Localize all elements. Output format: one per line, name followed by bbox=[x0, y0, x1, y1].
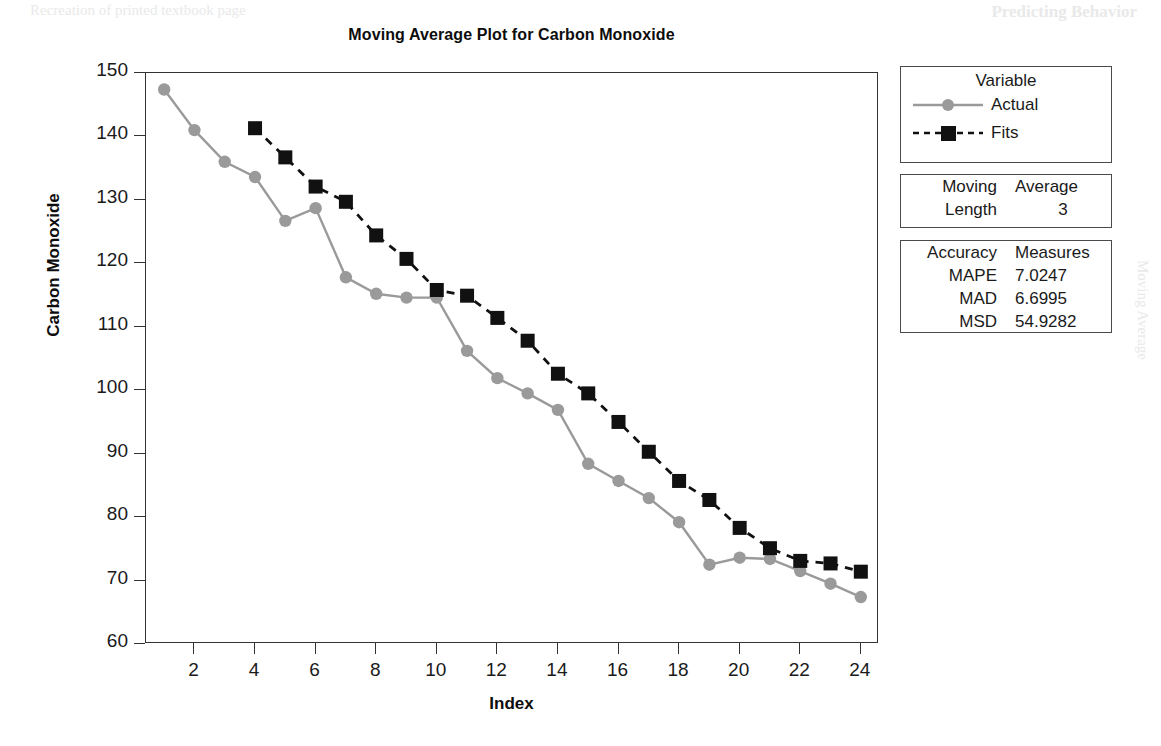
moving-average-table: Moving Average Length 3 bbox=[901, 175, 1111, 221]
page-bleed-artifact-top-left: Recreation of printed textbook page bbox=[30, 2, 246, 19]
accuracy-label-msd: MSD bbox=[901, 310, 1006, 333]
table-row: Length 3 bbox=[901, 198, 1111, 221]
data-point-marker bbox=[188, 124, 200, 136]
data-point-marker bbox=[672, 474, 686, 488]
y-tick-label: 100 bbox=[62, 376, 128, 398]
data-point-marker bbox=[248, 121, 262, 135]
data-point-marker bbox=[491, 372, 503, 384]
legend-key-actual-line bbox=[911, 94, 985, 116]
y-tick-mark bbox=[134, 643, 145, 644]
y-axis-title: Carbon Monoxide bbox=[44, 155, 64, 375]
accuracy-measures-table: Accuracy Measures MAPE 7.0247 MAD 6.6995… bbox=[901, 241, 1111, 333]
data-point-marker bbox=[521, 334, 535, 348]
data-point-marker bbox=[642, 445, 656, 459]
accuracy-header-right: Measures bbox=[1006, 241, 1111, 264]
legend-label-fits: Fits bbox=[985, 123, 1018, 143]
legend-entry-fits: Fits bbox=[901, 119, 1111, 147]
y-tick-mark bbox=[134, 580, 145, 581]
legend-entry-actual: Actual bbox=[901, 91, 1111, 119]
y-tick-label: 60 bbox=[62, 630, 128, 652]
x-tick-label: 16 bbox=[598, 659, 638, 681]
data-point-marker bbox=[521, 387, 533, 399]
y-tick-mark bbox=[134, 262, 145, 263]
page-bleed-artifact-top-right: Predicting Behavior bbox=[991, 2, 1137, 22]
x-tick-mark bbox=[436, 643, 437, 654]
series-line bbox=[164, 90, 861, 598]
x-tick-label: 4 bbox=[234, 659, 274, 681]
x-tick-mark bbox=[254, 643, 255, 654]
page-bleed-artifact-side: Moving Average bbox=[1134, 260, 1151, 360]
legend-box: Variable Actual Fits bbox=[900, 66, 1112, 163]
data-point-marker bbox=[582, 458, 594, 470]
y-tick-mark bbox=[134, 516, 145, 517]
x-tick-mark bbox=[739, 643, 740, 654]
data-point-marker bbox=[461, 345, 473, 357]
x-tick-label: 18 bbox=[658, 659, 698, 681]
data-point-marker bbox=[702, 493, 716, 507]
data-point-marker bbox=[854, 565, 868, 579]
accuracy-value-msd: 54.9282 bbox=[1006, 310, 1111, 333]
data-point-marker bbox=[279, 215, 291, 227]
accuracy-header-left: Accuracy bbox=[901, 241, 1006, 264]
data-point-marker bbox=[490, 311, 504, 325]
data-point-marker bbox=[581, 386, 595, 400]
accuracy-value-mad: 6.6995 bbox=[1006, 287, 1111, 310]
table-row: MAD 6.6995 bbox=[901, 287, 1111, 310]
data-point-marker bbox=[612, 415, 626, 429]
x-tick-mark bbox=[799, 643, 800, 654]
accuracy-measures-box: Accuracy Measures MAPE 7.0247 MAD 6.6995… bbox=[900, 240, 1112, 333]
y-tick-label: 140 bbox=[62, 122, 128, 144]
x-tick-mark bbox=[375, 643, 376, 654]
data-point-marker bbox=[793, 554, 807, 568]
data-point-marker bbox=[552, 404, 564, 416]
series-actual bbox=[158, 83, 867, 603]
x-tick-label: 22 bbox=[779, 659, 819, 681]
x-axis-title: Index bbox=[145, 694, 878, 714]
moving-average-box: Moving Average Length 3 bbox=[900, 174, 1112, 228]
data-point-marker bbox=[370, 288, 382, 300]
x-tick-mark bbox=[496, 643, 497, 654]
accuracy-label-mape: MAPE bbox=[901, 264, 1006, 287]
series-line bbox=[255, 128, 861, 571]
y-tick-label: 70 bbox=[62, 567, 128, 589]
y-tick-mark bbox=[134, 72, 145, 73]
moving-average-length-value: 3 bbox=[1006, 198, 1111, 221]
legend-title: Variable bbox=[901, 71, 1111, 91]
table-row: Moving Average bbox=[901, 175, 1111, 198]
y-tick-label: 120 bbox=[62, 249, 128, 271]
data-point-marker bbox=[309, 202, 321, 214]
data-point-marker bbox=[763, 541, 777, 555]
y-tick-label: 130 bbox=[62, 186, 128, 208]
x-tick-label: 14 bbox=[537, 659, 577, 681]
data-point-marker bbox=[551, 367, 565, 381]
data-point-marker bbox=[673, 516, 685, 528]
data-point-marker bbox=[249, 171, 261, 183]
series-fits bbox=[248, 121, 868, 578]
table-row: MSD 54.9282 bbox=[901, 310, 1111, 333]
chart-title: Moving Average Plot for Carbon Monoxide bbox=[145, 26, 878, 44]
y-tick-mark bbox=[134, 389, 145, 390]
data-point-marker bbox=[824, 556, 838, 570]
y-tick-label: 110 bbox=[62, 313, 128, 335]
data-point-marker bbox=[340, 271, 352, 283]
data-point-marker bbox=[309, 180, 323, 194]
moving-average-header-left: Moving bbox=[901, 175, 1006, 198]
y-tick-label: 150 bbox=[62, 59, 128, 81]
y-tick-label: 80 bbox=[62, 503, 128, 525]
data-point-marker bbox=[703, 558, 715, 570]
data-point-marker bbox=[733, 521, 747, 535]
x-tick-label: 24 bbox=[840, 659, 880, 681]
x-tick-mark bbox=[193, 643, 194, 654]
x-tick-mark bbox=[315, 643, 316, 654]
series-canvas bbox=[146, 73, 879, 644]
data-point-marker bbox=[339, 195, 353, 209]
data-point-marker bbox=[369, 228, 383, 242]
data-point-marker bbox=[158, 83, 170, 95]
x-tick-label: 6 bbox=[295, 659, 335, 681]
x-tick-label: 8 bbox=[355, 659, 395, 681]
x-tick-label: 20 bbox=[719, 659, 759, 681]
data-point-marker bbox=[643, 492, 655, 504]
legend-key-fits-line bbox=[911, 122, 985, 144]
x-tick-label: 2 bbox=[173, 659, 213, 681]
legend-label-actual: Actual bbox=[985, 95, 1038, 115]
